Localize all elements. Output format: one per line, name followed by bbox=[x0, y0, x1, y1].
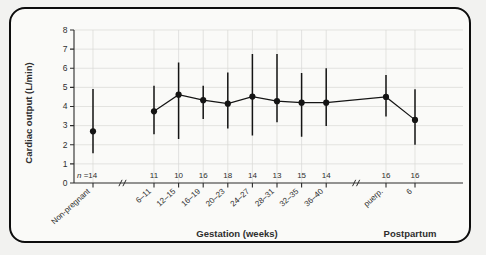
x-category-label: 28–31 bbox=[253, 186, 276, 208]
x-axis-ticks bbox=[93, 183, 415, 188]
x-category-label: 36–40 bbox=[302, 186, 325, 208]
n-values-row: 11101618141315141616 bbox=[150, 171, 420, 180]
error-bars bbox=[93, 54, 415, 153]
n-value: 14 bbox=[322, 171, 331, 180]
y-axis-title: Cardiac output (L/min) bbox=[23, 62, 34, 163]
x-category-label: 6 bbox=[405, 186, 415, 196]
x-category-label: Non-pregnant bbox=[49, 186, 92, 226]
x-category-label: 16–19 bbox=[179, 186, 202, 208]
x-axis-group-label-postpartum: Postpartum bbox=[384, 228, 437, 239]
n-value: 16 bbox=[199, 171, 208, 180]
y-axis-ticks bbox=[70, 30, 74, 183]
n-value: 13 bbox=[273, 171, 282, 180]
x-category-label: 12–15 bbox=[155, 186, 178, 208]
n-value: 10 bbox=[174, 171, 183, 180]
x-category-label: 6–11 bbox=[134, 186, 153, 205]
x-axis-category-labels: Non-pregnant6–1112–1516–1920–2324–2728–3… bbox=[49, 186, 414, 226]
x-axis-group-label-gestation: Gestation (weeks) bbox=[196, 228, 277, 239]
grid-lines bbox=[74, 30, 463, 183]
y-tick-label: 1 bbox=[63, 159, 68, 169]
x-category-label: 20–23 bbox=[204, 186, 227, 208]
n-value: 14 bbox=[248, 171, 257, 180]
y-tick-label: 3 bbox=[63, 120, 68, 130]
y-tick-label: 2 bbox=[63, 140, 68, 150]
y-axis-tick-labels: 012345678 bbox=[63, 25, 68, 188]
n-value: 16 bbox=[411, 171, 420, 180]
mean-connecting-line bbox=[154, 95, 415, 120]
n-value: 11 bbox=[150, 171, 159, 180]
cardiac-output-chart: 012345678 Cardiac output (L/min) n =14 1… bbox=[11, 9, 471, 243]
y-tick-label: 6 bbox=[63, 63, 68, 73]
figure-container: 012345678 Cardiac output (L/min) n =14 1… bbox=[0, 0, 486, 255]
x-category-label: 24–27 bbox=[229, 186, 252, 208]
n-count-label: n =14 bbox=[77, 171, 98, 180]
n-value: 15 bbox=[297, 171, 306, 180]
y-tick-label: 0 bbox=[63, 178, 68, 188]
y-tick-label: 7 bbox=[63, 44, 68, 54]
x-category-label: 32–35 bbox=[278, 186, 301, 208]
y-tick-label: 5 bbox=[63, 82, 68, 92]
x-category-label: puerp. bbox=[362, 187, 385, 209]
y-tick-label: 8 bbox=[63, 25, 68, 35]
figure-frame: 012345678 Cardiac output (L/min) n =14 1… bbox=[9, 7, 471, 243]
n-value: 18 bbox=[223, 171, 232, 180]
n-value: 16 bbox=[382, 171, 391, 180]
chart-plot-area: 012345678 Cardiac output (L/min) n =14 1… bbox=[11, 9, 469, 241]
y-tick-label: 4 bbox=[63, 101, 68, 111]
